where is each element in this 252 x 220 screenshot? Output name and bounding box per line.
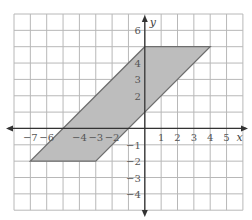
x-tick-label: 5 (223, 132, 229, 143)
x-tick-label: −2 (105, 132, 120, 143)
x-tick-label: 1 (158, 132, 164, 143)
x-tick-label: 3 (191, 132, 197, 143)
x-tick-label: 4 (207, 132, 213, 143)
y-tick-label: −1 (126, 140, 141, 151)
y-tick-label: 2 (134, 91, 140, 102)
x-axis-left-arrow-icon (6, 125, 13, 131)
y-axis-down-arrow-icon (142, 210, 148, 217)
x-tick-label: −7 (23, 132, 38, 143)
y-tick-label: −2 (126, 156, 141, 167)
y-tick-label: −3 (126, 173, 141, 184)
parallelogram (30, 47, 210, 161)
x-tick-label: −3 (88, 132, 103, 143)
coordinate-plane: −7−6−4−3−2123456432−1−2−3−4 x y (0, 0, 252, 220)
y-axis-label: y (149, 16, 157, 29)
x-tick-label: −6 (39, 132, 54, 143)
y-tick-label: 4 (134, 58, 140, 69)
x-axis-label: x (237, 131, 244, 144)
x-tick-label: 2 (174, 132, 180, 143)
y-tick-label: −4 (126, 189, 141, 200)
y-axis-up-arrow-icon (142, 15, 148, 22)
y-tick-label: 3 (134, 74, 140, 85)
x-tick-label: −4 (72, 132, 87, 143)
y-tick-label: 6 (134, 25, 140, 36)
